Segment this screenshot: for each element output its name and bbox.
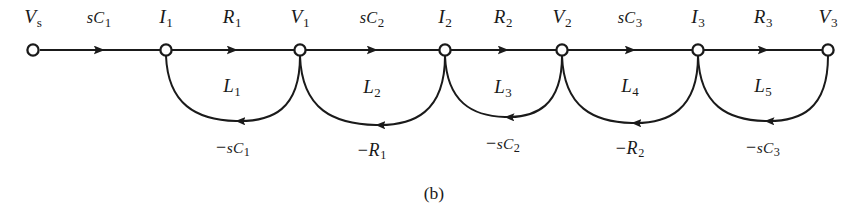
gain-label-r3: R3 xyxy=(754,7,773,30)
gain-label-sc3: sC3 xyxy=(618,7,642,30)
loop-label-l4: L4 xyxy=(621,76,639,99)
node-label-v2: V2 xyxy=(552,7,571,29)
node-label-vs: Vs xyxy=(24,7,42,29)
arc-i2-to-v1-head xyxy=(376,56,445,125)
arc-v2-to-i2-head xyxy=(505,56,562,117)
feedback-label-neg-sc1: −sC1 xyxy=(216,138,250,159)
node-label-v1: V1 xyxy=(290,7,309,29)
node-label-v3: V3 xyxy=(818,7,837,29)
loop-label-l5: L5 xyxy=(754,76,772,99)
node-label-i1: I1 xyxy=(159,7,173,29)
node-v2 xyxy=(556,44,567,55)
feedback-label-neg-sc3: −sC3 xyxy=(746,138,780,159)
feedback-label-neg-sc2: −sC2 xyxy=(486,134,520,155)
arc-i3-to-v2-head xyxy=(632,56,698,123)
feedback-label-neg-r1: −R1 xyxy=(358,141,387,162)
gain-label-r1: R1 xyxy=(223,7,242,30)
feedback-label-neg-r2: −R2 xyxy=(616,139,645,160)
node-i2 xyxy=(439,44,450,55)
node-i1 xyxy=(160,44,171,55)
loop-label-l2: L2 xyxy=(363,77,381,100)
node-v3 xyxy=(822,44,833,55)
gain-label-sc2: sC2 xyxy=(360,7,384,30)
node-i3 xyxy=(692,44,703,55)
signal-flow-graph-figure: Vs I1 V1 I2 V2 I3 V3 sC1 R1 sC2 R2 sC3 R… xyxy=(0,0,863,218)
node-label-i2: I2 xyxy=(438,7,452,29)
loop-label-l3: L3 xyxy=(494,77,512,100)
node-vs xyxy=(27,44,38,55)
arc-v1-to-i1-head xyxy=(236,56,300,121)
gain-label-r2: R2 xyxy=(494,7,513,30)
node-v1 xyxy=(294,44,305,55)
arc-v3-to-i3-head xyxy=(765,56,828,121)
gain-label-sc1: sC1 xyxy=(87,7,111,30)
figure-caption: (b) xyxy=(424,183,444,204)
loop-label-l1: L1 xyxy=(223,76,241,99)
node-label-i3: I3 xyxy=(691,7,705,29)
